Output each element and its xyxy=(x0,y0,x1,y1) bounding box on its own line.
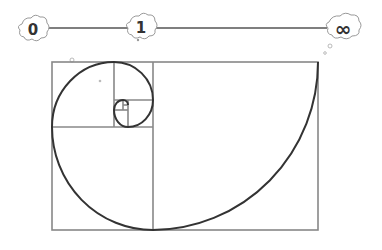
label-zero: 0 xyxy=(28,21,38,39)
label-one: 1 xyxy=(136,19,146,37)
golden-rectangle xyxy=(52,62,318,230)
cloud-label-one: 1 xyxy=(126,13,157,41)
golden-spiral-diagram: 0 1 ∞ xyxy=(0,0,382,250)
label-infinity: ∞ xyxy=(335,17,352,41)
golden-spiral xyxy=(52,62,318,230)
cloud-label-infinity: ∞ xyxy=(324,13,361,54)
cloud-label-zero: 0 xyxy=(18,15,49,41)
